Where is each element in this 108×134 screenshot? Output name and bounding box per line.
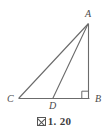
vertex-label-b: B xyxy=(95,94,101,104)
vertex-label-d: D xyxy=(49,101,56,111)
segment-CA xyxy=(19,24,88,98)
vertex-label-a: A xyxy=(85,9,91,19)
figure-caption-number: 1. 20 xyxy=(48,115,72,127)
figure-caption: 1. 20 xyxy=(0,114,108,128)
right-angle-mark-B xyxy=(82,91,89,98)
triangle-diagram xyxy=(0,0,108,112)
vertex-label-c: C xyxy=(7,94,14,104)
segment-DA xyxy=(53,24,88,98)
missing-glyph-box-icon xyxy=(37,117,46,126)
geometry-figure: A B C D 1. 20 xyxy=(0,0,108,134)
